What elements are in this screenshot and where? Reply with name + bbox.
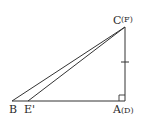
right-angle-mark: [119, 95, 125, 101]
segment-bc: [12, 27, 125, 101]
label-b: B: [9, 103, 17, 116]
triangle-diagram: C (F) B E' A (D): [0, 0, 145, 125]
label-d: (D): [121, 106, 134, 115]
label-e-prime: E': [24, 103, 35, 116]
segment-e-prime-c: [28, 27, 125, 101]
label-f: (F): [121, 15, 133, 24]
